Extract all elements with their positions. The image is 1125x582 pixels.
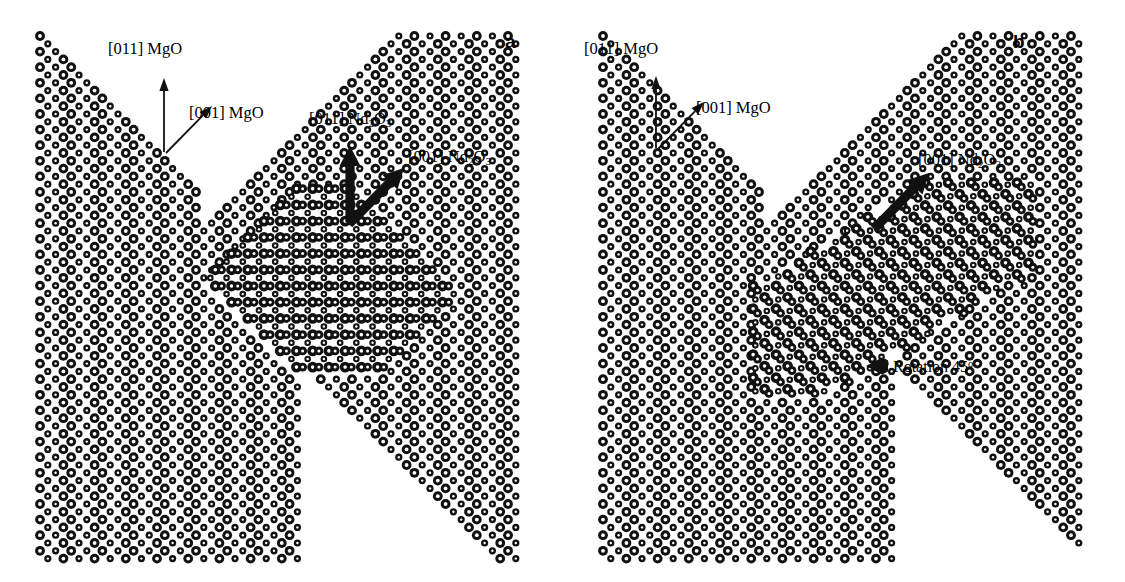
metal-atom [395,48,402,55]
oxygen-atom [879,125,889,135]
neodymium-atom [914,286,923,295]
figure-root: a[011] MgO[001] MgO[011] Nd2O3[001] Nd2O… [0,0,1125,582]
oxygen-atom [629,203,639,213]
oxygen-atom [495,226,505,236]
oxygen-atom [503,62,513,72]
oxygen-atom [160,406,170,416]
metal-atom [857,539,864,546]
oxygen-atom [785,546,795,556]
metal-atom [138,493,145,500]
metal-atom [1044,149,1051,156]
metal-atom [1052,266,1059,273]
oxygen-atom [90,101,100,111]
oxygen-atom [1027,413,1037,423]
oxygen-atom [715,413,725,423]
metal-atom [395,157,402,164]
oxygen-atom [385,242,392,249]
oxygen-atom [288,226,295,233]
oxygen-atom [464,179,474,189]
oxygen-atom [629,172,639,182]
metal-atom [802,532,809,539]
metal-atom [208,298,215,305]
oxygen-atom [746,476,756,486]
metal-atom [107,321,114,328]
oxygen-atom [723,452,733,462]
oxygen-atom [809,429,819,439]
oxygen-atom [98,359,108,369]
metal-atom [489,344,496,351]
label-subscript-2: 3 [995,158,1001,170]
metal-atom [395,126,402,133]
oxygen-atom [1004,296,1014,306]
oxygen-atom [629,187,639,197]
oxygen-atom [965,429,975,439]
neodymium-atom [891,286,900,295]
oxygen-atom [272,339,279,346]
metal-atom [75,524,82,531]
oxygen-atom [66,421,76,431]
metal-atom [75,415,82,422]
oxygen-atom [848,172,858,182]
oxygen-atom [692,484,702,494]
metal-atom [1021,376,1028,383]
oxygen-atom [653,491,663,501]
metal-atom [1044,71,1051,78]
oxygen-atom [121,382,131,392]
metal-atom [177,220,184,227]
oxygen-atom [901,285,908,292]
neodymium-atom [363,249,372,258]
metal-atom [646,313,653,320]
metal-atom [450,477,457,484]
oxygen-atom [653,382,663,392]
metal-atom [44,524,51,531]
metal-atom [208,220,215,227]
oxygen-atom [304,242,311,249]
metal-atom [52,469,59,476]
oxygen-atom [254,203,264,213]
metal-atom [740,282,747,289]
oxygen-atom [598,187,608,197]
metal-atom [512,227,519,234]
oxygen-atom [152,179,162,189]
metal-atom [83,313,90,320]
neodymium-atom [925,228,934,237]
metal-atom [450,71,457,78]
metal-atom [740,344,747,351]
oxygen-atom [965,101,975,111]
oxygen-atom [441,312,451,322]
oxygen-atom [304,210,311,217]
metal-atom [200,461,207,468]
neodymium-atom [298,233,307,242]
oxygen-atom [410,47,420,57]
metal-atom [732,243,739,250]
oxygen-atom [821,273,828,280]
oxygen-atom [855,239,862,246]
oxygen-atom [152,429,162,439]
neodymium-atom [266,282,275,291]
oxygen-atom [66,359,76,369]
metal-atom [419,212,426,219]
metal-atom [325,149,332,156]
metal-atom [169,539,176,546]
metal-atom [489,391,496,398]
neodymium-atom [331,363,340,372]
neodymium-atom [856,297,865,306]
oxygen-atom [715,382,725,392]
oxygen-atom [183,398,193,408]
oxygen-atom [90,273,100,283]
oxygen-atom [973,31,983,41]
metal-atom [231,508,238,515]
metal-atom [740,220,747,227]
metal-atom [52,360,59,367]
oxygen-atom [844,273,851,280]
metal-atom [44,40,51,47]
neodymium-atom [428,282,437,291]
metal-atom [83,547,90,554]
oxygen-atom [472,94,482,104]
metal-atom [709,532,716,539]
oxygen-atom [1058,335,1068,345]
metal-atom [771,516,778,523]
oxygen-atom [629,421,639,431]
metal-atom [615,64,622,71]
metal-atom [701,227,708,234]
